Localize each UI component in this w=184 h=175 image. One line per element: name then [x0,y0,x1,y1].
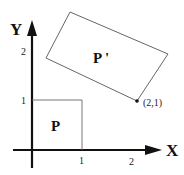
marked-point-label: (2,1) [143,97,162,109]
x-tick-2: 2 [129,156,134,167]
y-axis-arrowhead-icon [27,20,37,36]
x-axis-arrowhead-icon [145,145,162,155]
coordinate-diagram: Y X 1 2 1 2 P P ' (2,1) [0,0,184,175]
x-tick-1: 1 [79,155,84,166]
x-axis-label: X [166,141,179,160]
y-axis-label: Y [10,20,22,39]
marked-point-dot-icon [135,99,139,103]
y-tick-1: 1 [21,95,26,106]
transformed-shape-label: P ' [93,50,109,66]
y-tick-2: 2 [21,46,26,57]
original-shape-label: P [51,118,60,134]
